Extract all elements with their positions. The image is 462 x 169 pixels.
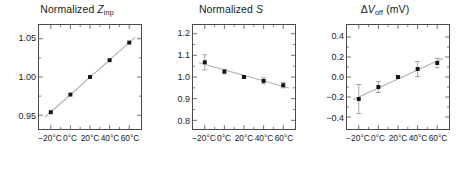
panel-title-subscript-1: inp (104, 8, 114, 17)
y-tick-label: −0.4 (310, 113, 344, 123)
y-tick-label: 0.9 (156, 94, 190, 104)
plot-area-1 (38, 24, 142, 130)
data-point-marker (416, 67, 420, 71)
data-point-marker (376, 85, 380, 89)
x-tick-label: 20°C (81, 133, 100, 143)
y-tick-label: 1.05 (2, 33, 36, 43)
data-point-marker (435, 61, 439, 65)
y-tick-label: 1.0 (156, 72, 190, 82)
x-tick-label: −20°C (38, 133, 62, 143)
x-tick-label: 0°C (63, 133, 77, 143)
fit-line (353, 58, 443, 99)
panel-title-prefix-3: Δ (361, 3, 368, 15)
x-tick-label: −20°C (346, 133, 370, 143)
y-tick-label: 1.2 (156, 28, 190, 38)
x-tick-label: 40°C (409, 133, 428, 143)
figure-container: Normalized Zinp 1.051.000.95 −20°C0°C20°… (0, 0, 462, 169)
y-tick-label: 0.95 (2, 111, 36, 121)
x-tick-label: 40°C (255, 133, 274, 143)
data-point-marker (396, 75, 400, 79)
plot-area-3 (346, 24, 450, 130)
x-tick-label: 20°C (389, 133, 408, 143)
data-point-marker (127, 41, 131, 45)
panel-title-symbol-1: Z (97, 3, 104, 15)
y-tick-label: 0.2 (310, 52, 344, 62)
data-point-marker (108, 58, 112, 62)
panel-title-symbol-2: S (256, 3, 263, 15)
x-tick-label: 40°C (101, 133, 120, 143)
data-point-marker (262, 79, 266, 83)
plot-area-2 (192, 24, 296, 130)
x-tick-label: 20°C (235, 133, 254, 143)
data-point-marker (203, 60, 207, 64)
panel-title-subscript-3: off (375, 8, 383, 17)
panel-title-suffix-3: (mV) (383, 3, 409, 15)
data-point-marker (222, 70, 226, 74)
panel-delta-voff: ΔVoff (mV) 0.40.20.0−0.2−0.4 −20°C0°C20°… (308, 0, 462, 169)
panel-normalized-s: Normalized S 1.21.11.00.90.8 −20°C0°C20°… (154, 0, 308, 169)
data-point-marker (88, 75, 92, 79)
x-tick-label: 0°C (371, 133, 385, 143)
panel-title-prefix-2: Normalized (199, 3, 256, 15)
y-tick-label: 1.00 (2, 72, 36, 82)
data-point-marker (242, 75, 246, 79)
y-tick-label: −0.2 (310, 92, 344, 102)
panel-title-3: ΔVoff (mV) (308, 3, 462, 15)
data-point-marker (357, 97, 361, 101)
y-tick-label: 0.8 (156, 116, 190, 126)
panel-normalized-zinp: Normalized Zinp 1.051.000.95 −20°C0°C20°… (0, 0, 154, 169)
y-axis-labels-1: 1.051.000.95 (0, 24, 36, 130)
plot-svg-1 (39, 25, 141, 129)
plot-svg-3 (347, 25, 449, 129)
panel-title-2: Normalized S (154, 3, 308, 15)
data-point-marker (68, 93, 72, 97)
y-axis-labels-2: 1.21.11.00.90.8 (154, 24, 190, 130)
x-tick-label: 60°C (429, 133, 448, 143)
panel-title-prefix-1: Normalized (40, 3, 97, 15)
x-tick-label: 60°C (121, 133, 140, 143)
y-tick-label: 0.4 (310, 31, 344, 41)
x-tick-label: 60°C (275, 133, 294, 143)
data-point-marker (49, 110, 53, 114)
y-tick-label: 0.0 (310, 72, 344, 82)
y-axis-labels-3: 0.40.20.0−0.2−0.4 (308, 24, 344, 130)
y-tick-label: 1.1 (156, 50, 190, 60)
plot-svg-2 (193, 25, 295, 129)
panel-title-1: Normalized Zinp (0, 3, 154, 15)
panel-title-symbol-3: V (368, 3, 375, 15)
data-point-marker (281, 83, 285, 87)
x-tick-label: −20°C (192, 133, 216, 143)
x-tick-label: 0°C (217, 133, 231, 143)
